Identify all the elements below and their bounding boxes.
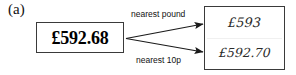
results-box: £593 £592.70 xyxy=(204,6,285,70)
result-value-nearest-10p: £592.70 xyxy=(218,47,270,60)
arrow-to-nearest-10p xyxy=(126,39,203,53)
arrow-label-nearest-10p: nearest 10p xyxy=(136,56,181,65)
part-label: (a) xyxy=(8,2,25,17)
source-value-text: £592.68 xyxy=(51,29,108,47)
source-value-box: £592.68 xyxy=(36,22,124,53)
result-row: £593 xyxy=(205,7,284,38)
arrow-to-nearest-pound xyxy=(126,24,203,39)
figure-canvas: (a) £592.68 nearest pound nearest 10p £5… xyxy=(0,0,296,75)
result-value-nearest-pound: £593 xyxy=(228,16,262,29)
result-row: £592.70 xyxy=(205,38,284,69)
arrow-label-nearest-pound: nearest pound xyxy=(131,10,185,19)
